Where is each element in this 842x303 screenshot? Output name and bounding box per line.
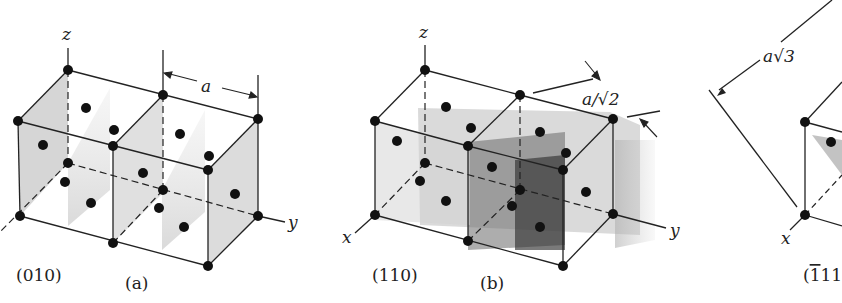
plane-110-light-right [615,140,655,248]
plane-label-bar-digit: 1 [810,265,821,285]
plane-label-110: (110) [372,265,418,285]
crystal-planes-figure: z y a (010) (a) [0,0,842,303]
dimension-label-a: a [201,76,211,96]
caption-b: (b) [480,273,504,293]
plane-label-111: (111 [803,265,842,285]
axis-label-x: x [342,227,352,247]
dimension-label-a-root3: a√3 [763,46,795,66]
plane-label-rest: 11 [820,265,842,285]
axis-label-y: y [287,212,298,232]
axis-label-y: y [669,220,680,240]
plane-label-010: (010) [16,265,62,285]
panel-c: a√3 x (111 [709,0,842,285]
panel-a: z y a (010) (a) [0,24,298,293]
caption-a: (a) [125,273,148,293]
axis-label-z: z [61,24,72,44]
plane-010-mid-2 [113,95,163,243]
axis-label-z: z [418,22,429,42]
panel-b: z y x a/√2 (110) (b) [342,22,680,293]
axis-label-x: x [781,228,791,248]
dimension-label-a-over-root2: a/√2 [582,89,620,109]
